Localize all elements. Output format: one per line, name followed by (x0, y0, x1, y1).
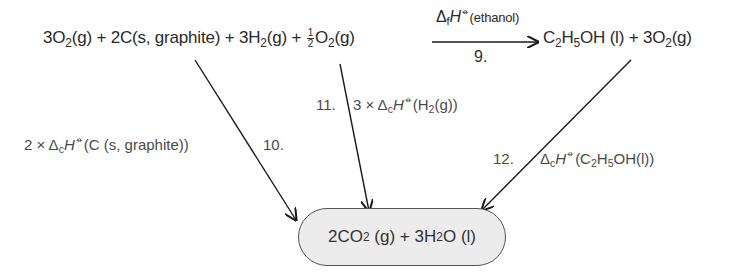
symbol: H (248, 28, 260, 47)
path-11-arrow (340, 64, 369, 211)
symbol: C (543, 28, 555, 47)
coef: 2 (328, 227, 337, 247)
reactants: 3O2(g) + 2C(s, graphite) + 3H2(g) + 12O2… (43, 28, 355, 49)
enthalpy-symbol: H (393, 96, 404, 113)
symbol: O (652, 28, 665, 47)
delta-symbol: Δ (49, 136, 59, 153)
symbol: O (443, 227, 456, 247)
plus: + (291, 28, 301, 47)
coef: 3 (415, 227, 424, 247)
standard-state-icon: ⦵ (405, 94, 413, 104)
species: H (597, 150, 608, 167)
standard-state-icon: ⦵ (462, 6, 470, 16)
enthalpy-symbol: H (449, 8, 460, 25)
state: (l) (610, 28, 625, 47)
symbol: H (424, 227, 436, 247)
multiplier: 3 × (353, 96, 378, 113)
denominator: 2 (307, 39, 314, 49)
state: (g) (335, 28, 355, 47)
coef: 2 (111, 28, 120, 47)
standard-state-icon: ⦵ (567, 148, 575, 158)
state: (g) (72, 28, 92, 47)
symbol: H (562, 28, 574, 47)
plus: + (629, 28, 639, 47)
coef: 3 (239, 28, 248, 47)
path-11-label: 3 × ΔcH⦵(H2(g)) (353, 96, 458, 113)
step-12-label: 12. (493, 150, 514, 167)
step-9-label: 9. (474, 48, 487, 66)
qualifier: (ethanol) (470, 10, 520, 25)
half-fraction: 12 (307, 28, 314, 49)
species: (C (s, graphite)) (84, 136, 189, 153)
plus: + (400, 227, 410, 247)
standard-state-icon: ⦵ (76, 134, 84, 144)
delta-symbol: Δ (436, 8, 447, 25)
state: (g) (267, 28, 287, 47)
species: (g)) (434, 96, 457, 113)
formation-enthalpy-label: ΔfH⦵(ethanol) (436, 8, 519, 26)
path-12-arrow (482, 60, 631, 210)
species: (H (413, 96, 429, 113)
path-12-label: ΔcH⦵(C2H5OH(l)) (540, 150, 654, 167)
enthalpy-symbol: H (64, 136, 75, 153)
plus: + (96, 28, 106, 47)
species: (C (575, 150, 591, 167)
symbol: O (315, 28, 328, 47)
step-10-label: 10. (263, 136, 284, 153)
coef: 3 (43, 28, 52, 47)
coef: 3 (643, 28, 652, 47)
delta-symbol: Δ (378, 96, 388, 113)
combustion-products-box: 2CO2 (g) + 3H2O (l) (298, 208, 506, 266)
state: (l) (461, 227, 476, 247)
enthalpy-symbol: H (555, 150, 566, 167)
plus: + (225, 28, 235, 47)
delta-symbol: Δ (540, 150, 550, 167)
products: C2H5OH (l) + 3O2(g) (543, 28, 692, 48)
state: (s, graphite) (132, 28, 220, 47)
symbol: CO (337, 227, 363, 247)
state: (g) (672, 28, 692, 47)
symbol: C (120, 28, 132, 47)
multiplier: 2 × (24, 136, 49, 153)
species: OH(l)) (613, 150, 654, 167)
state: (g) (374, 227, 395, 247)
symbol: O (52, 28, 65, 47)
symbol: OH (580, 28, 605, 47)
path-10-label: 2 × ΔcH⦵(C (s, graphite)) (24, 136, 189, 153)
step-11-label: 11. (316, 96, 336, 113)
